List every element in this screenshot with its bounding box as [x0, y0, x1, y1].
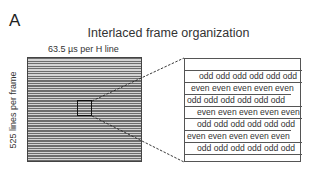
row-text: odd odd odd odd odd odd: [199, 71, 297, 81]
row-text: odd odd odd odd odd odd: [197, 119, 295, 129]
lines-per-frame-label: 525 lines per frame: [8, 71, 18, 148]
zoom-region-marker: [77, 100, 92, 116]
row-text: even even even even even: [197, 107, 300, 117]
detail-row-odd: odd odd odd odd odd odd: [185, 70, 302, 82]
row-text: even even even even even: [191, 83, 294, 93]
detail-row-odd: odd odd odd odd odd odd: [185, 118, 302, 130]
row-text: odd odd odd odd odd odd: [197, 143, 295, 153]
row-text: even even even even even: [187, 131, 290, 141]
interlaced-lines-detail: odd odd odd odd odd odd even even even e…: [184, 58, 301, 162]
detail-row-even: even even even even even: [185, 130, 291, 142]
detail-row-odd: odd odd odd odd odd odd: [185, 142, 302, 154]
detail-row-even: even even even even even: [185, 106, 302, 118]
row-text: odd odd odd odd odd odd: [187, 95, 285, 105]
detail-row-odd: odd odd odd odd odd odd: [185, 94, 291, 106]
detail-row-even: even even even even even: [185, 82, 302, 94]
diagram-title: Interlaced frame organization: [0, 26, 309, 40]
detail-row: [185, 154, 302, 166]
horizontal-line-duration-label: 63.5 µs per H line: [48, 44, 119, 54]
